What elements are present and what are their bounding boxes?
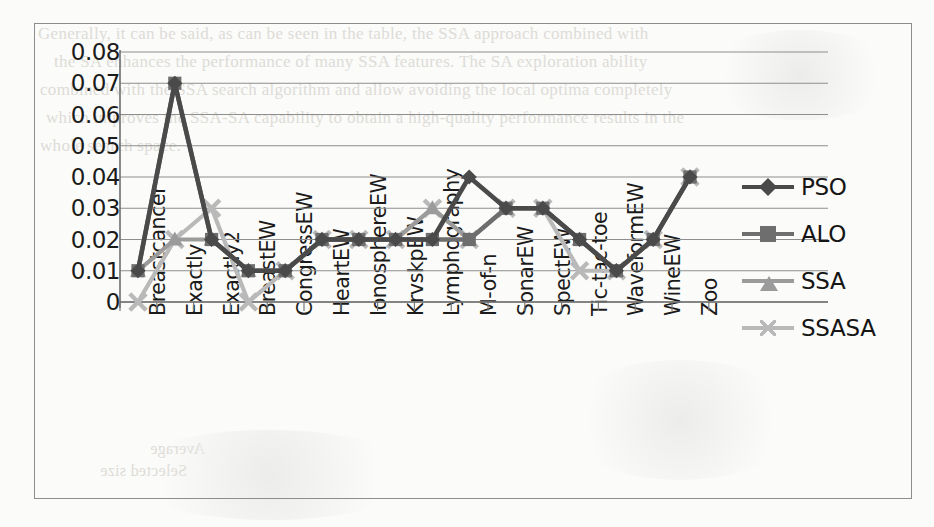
legend-item-ssasa[interactable]: SSASA xyxy=(742,317,876,339)
legend-item-ssa[interactable]: SSA xyxy=(742,270,876,292)
legend-label-alo: ALO xyxy=(801,221,846,247)
legend-label-ssasa: SSASA xyxy=(801,315,876,341)
legend-label-pso: PSO xyxy=(801,174,847,200)
diamond-marker-icon xyxy=(742,176,794,198)
cross-marker-icon xyxy=(742,317,794,339)
legend-label-ssa: SSA xyxy=(801,268,845,294)
triangle-marker-icon xyxy=(742,270,794,292)
square-marker-icon xyxy=(742,223,794,245)
legend-item-alo[interactable]: ALO xyxy=(742,223,876,245)
chart-legend: PSO ALO SSA SSASA xyxy=(742,176,876,339)
x-axis-ticks xyxy=(120,302,828,311)
legend-item-pso[interactable]: PSO xyxy=(742,176,876,198)
